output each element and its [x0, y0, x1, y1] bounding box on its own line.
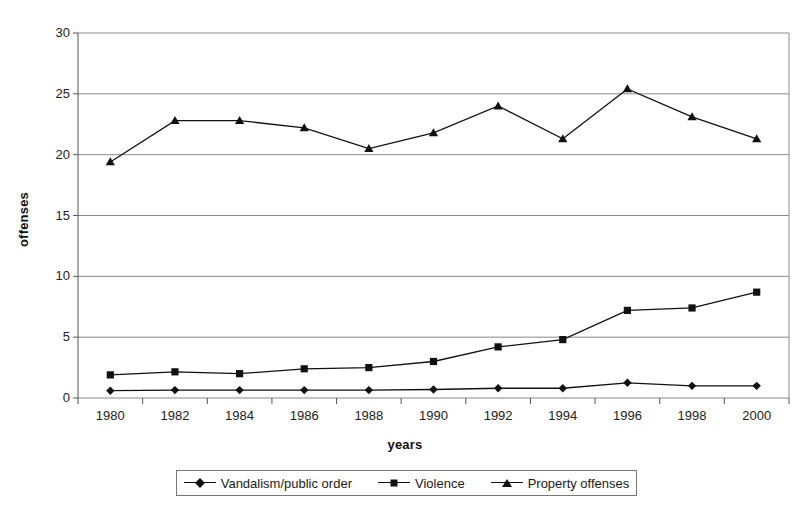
diamond-marker-icon — [195, 478, 205, 488]
line-chart: offenses years 051015202530 198019821984… — [0, 0, 810, 525]
series-1 — [107, 289, 761, 379]
plot-area — [0, 0, 810, 525]
data-point-marker — [494, 384, 502, 392]
data-point-marker — [752, 382, 760, 390]
data-point-marker — [107, 371, 114, 378]
data-point-marker — [106, 157, 115, 165]
data-point-marker — [429, 128, 438, 136]
data-point-marker — [687, 112, 696, 120]
data-point-marker — [235, 386, 243, 394]
legend-label: Property offenses — [526, 476, 630, 491]
legend-item-0[interactable]: Vandalism/public order — [184, 476, 352, 491]
data-point-marker — [558, 134, 567, 142]
data-point-marker — [301, 365, 308, 372]
legend-label: Violence — [413, 476, 465, 491]
data-point-marker — [171, 368, 178, 375]
data-point-marker — [236, 370, 243, 377]
data-point-marker — [300, 386, 308, 394]
data-point-marker — [623, 379, 631, 387]
triangle-marker-icon — [502, 479, 512, 487]
chart-legend: Vandalism/public orderViolenceProperty o… — [176, 470, 637, 496]
series-2 — [106, 84, 762, 165]
legend-item-1[interactable]: Violence — [378, 476, 465, 491]
data-point-marker — [753, 289, 760, 296]
data-point-marker — [559, 336, 566, 343]
data-point-marker — [494, 101, 503, 109]
data-point-marker — [688, 304, 695, 311]
data-point-marker — [430, 358, 437, 365]
series-0 — [106, 379, 761, 395]
data-point-marker — [624, 307, 631, 314]
legend-swatch — [378, 477, 410, 489]
data-point-marker — [688, 382, 696, 390]
legend-swatch — [491, 477, 523, 489]
square-marker-icon — [390, 480, 397, 487]
data-point-marker — [365, 386, 373, 394]
legend-label: Vandalism/public order — [219, 476, 352, 491]
data-point-marker — [559, 384, 567, 392]
data-point-marker — [365, 364, 372, 371]
data-point-marker — [171, 386, 179, 394]
legend-swatch — [184, 477, 216, 489]
data-point-marker — [623, 84, 632, 92]
data-point-marker — [429, 385, 437, 393]
data-point-marker — [106, 387, 114, 395]
series-line — [110, 89, 756, 162]
legend-item-2[interactable]: Property offenses — [491, 476, 630, 491]
data-point-marker — [495, 343, 502, 350]
